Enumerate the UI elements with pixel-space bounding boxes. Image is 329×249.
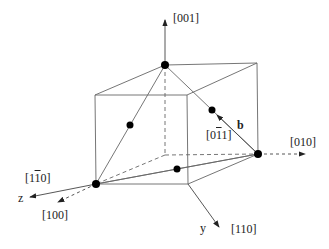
label-b: b [237,119,244,131]
label-0-11: [011] [206,129,232,141]
label-001: [001] [173,12,199,24]
atom-mid-left [127,122,134,129]
atom-mid-bottom [174,166,181,173]
label-010: [010] [290,136,316,148]
atom-top [161,61,169,69]
axis-z [30,184,96,197]
atom-mid-right [209,107,216,114]
label-1-10: [110] [25,172,51,184]
label-100: [100] [42,209,68,221]
atom-right [254,150,262,158]
label-y: y [200,222,206,234]
axis-100 [58,184,96,202]
atom-front-bottom-left [92,180,100,188]
label-110: [110] [231,223,257,235]
label-z: z [18,192,23,204]
